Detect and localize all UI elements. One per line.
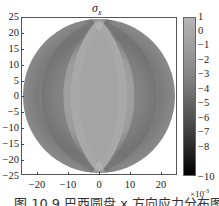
x-tick-mark [37, 172, 38, 175]
y-tick-mark [21, 144, 24, 145]
x-tick-label: 10 [118, 180, 142, 190]
y-tick-mark [21, 160, 24, 161]
y-tick-label: 20 [0, 28, 19, 38]
x-tick-mark [99, 172, 100, 175]
colorbar-tick-label: −10 [198, 172, 214, 182]
y-tick-label: 10 [0, 60, 19, 70]
colorbar-tick-label: −3 [198, 69, 209, 79]
colorbar-tick-label: −2 [198, 55, 209, 65]
plot-area [21, 17, 177, 175]
x-tick-label: 0 [87, 180, 111, 190]
x-tick-label: −20 [25, 180, 49, 190]
y-tick-label: 0 [0, 91, 19, 101]
x-tick-label: 20 [149, 180, 173, 190]
colorbar-tick-label: 0 [198, 26, 203, 36]
y-tick-label: 25 [0, 12, 19, 22]
figure-caption: 图 10.9 巴西圆盘 x 方向应力分布图 [14, 197, 219, 206]
x-tick-label: −10 [56, 180, 80, 190]
y-tick-label: −5 [0, 107, 19, 117]
y-tick-label: −25 [0, 171, 19, 181]
y-tick-mark [21, 112, 24, 113]
stress-heatmap [22, 18, 176, 174]
x-tick-mark [161, 172, 162, 175]
y-tick-mark [21, 128, 24, 129]
x-tick-mark [130, 172, 131, 175]
colorbar-tick-label: −8 [198, 142, 209, 152]
y-tick-mark [21, 49, 24, 50]
y-tick-label: −15 [0, 139, 19, 149]
colorbar-tick-label: −6 [198, 113, 209, 123]
colorbar [183, 17, 196, 176]
y-tick-label: 15 [0, 44, 19, 54]
y-tick-mark [21, 65, 24, 66]
colorbar-tick-label: −4 [198, 84, 209, 94]
colorbar-tick-label: 1 [198, 12, 203, 22]
y-tick-label: 5 [0, 76, 19, 86]
y-tick-label: −10 [0, 123, 19, 133]
colorbar-tick-label: −7 [198, 127, 209, 137]
y-tick-mark [21, 33, 24, 34]
y-tick-label: −20 [0, 155, 19, 165]
colorbar-tick-label: −1 [198, 40, 209, 50]
y-tick-mark [21, 81, 24, 82]
chart-title: σx [92, 1, 101, 17]
y-tick-mark [21, 96, 24, 97]
x-tick-mark [68, 172, 69, 175]
colorbar-tick-label: −5 [198, 98, 209, 108]
